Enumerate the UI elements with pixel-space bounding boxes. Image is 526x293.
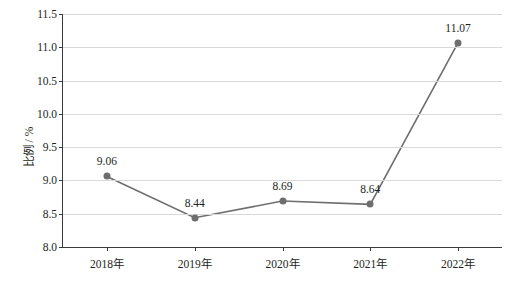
y-tick-label: 9.5: [43, 141, 57, 153]
series-line: [63, 14, 502, 247]
gridline: [63, 81, 502, 82]
gridline: [63, 114, 502, 115]
plot-area: 8.08.59.09.510.010.511.011.52018年2019年20…: [62, 14, 502, 248]
data-point-label: 8.69: [272, 180, 292, 192]
line-chart: 比例 / % 8.08.59.09.510.010.511.011.52018年…: [0, 0, 526, 293]
x-tick-mark: [283, 247, 284, 251]
y-tick-label: 10.0: [37, 108, 57, 120]
y-tick-label: 9.0: [43, 174, 57, 186]
y-tick-mark: [59, 14, 63, 15]
x-tick-mark: [107, 247, 108, 251]
y-tick-mark: [59, 147, 63, 148]
data-point-marker: [455, 39, 462, 46]
gridline: [63, 214, 502, 215]
data-point-label: 11.07: [445, 22, 470, 34]
x-tick-mark: [458, 247, 459, 251]
data-point-marker: [279, 198, 286, 205]
data-point-marker: [103, 173, 110, 180]
data-point-label: 8.44: [185, 197, 205, 209]
y-tick-label: 11.5: [37, 8, 57, 20]
x-tick-label: 2019年: [178, 255, 212, 271]
x-tick-label: 2021年: [353, 255, 387, 271]
y-tick-mark: [59, 247, 63, 248]
data-point-label: 9.06: [97, 155, 117, 167]
y-tick-mark: [59, 180, 63, 181]
y-tick-label: 8.5: [43, 208, 57, 220]
data-point-marker: [367, 201, 374, 208]
x-tick-label: 2018年: [90, 255, 124, 271]
y-tick-mark: [59, 47, 63, 48]
y-tick-mark: [59, 81, 63, 82]
y-tick-label: 8.0: [43, 241, 57, 253]
data-point-label: 8.64: [360, 183, 380, 195]
x-tick-label: 2022年: [441, 255, 475, 271]
y-axis-title: 比例 / %: [20, 126, 36, 167]
x-tick-mark: [195, 247, 196, 251]
gridline: [63, 147, 502, 148]
x-tick-label: 2020年: [266, 255, 300, 271]
y-tick-label: 11.0: [37, 41, 57, 53]
data-point-marker: [191, 214, 198, 221]
y-tick-label: 10.5: [37, 75, 57, 87]
gridline: [63, 47, 502, 48]
y-tick-mark: [59, 114, 63, 115]
x-tick-mark: [370, 247, 371, 251]
gridline: [63, 14, 502, 15]
y-tick-mark: [59, 214, 63, 215]
